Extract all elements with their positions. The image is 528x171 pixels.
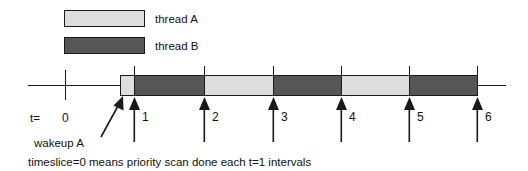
axis-baseline-left <box>28 85 121 86</box>
tick-arrow-1 <box>128 97 141 142</box>
axis-tick-line-6 <box>477 66 478 96</box>
wakeup-label: wakeup A <box>34 138 84 150</box>
segment-thread-b-5 <box>410 75 478 96</box>
axis-tick-line-1 <box>134 66 135 96</box>
tick-label-6: 6 <box>485 111 492 123</box>
tick-label-3: 3 <box>281 111 288 123</box>
tick-arrow-4 <box>335 97 348 142</box>
segment-thread-b-1 <box>135 75 205 96</box>
axis-tick-0 <box>65 70 66 100</box>
tick-arrow-2 <box>198 97 211 142</box>
tick-arrow-3 <box>267 97 280 142</box>
axis-tick-line-3 <box>273 66 274 96</box>
axis-tick-line-4 <box>341 66 342 96</box>
segment-thread-a-2 <box>205 75 274 96</box>
tick-arrow-5 <box>403 97 416 142</box>
segment-thread-a-0 <box>120 75 135 96</box>
axis-t-label: t= <box>30 113 40 125</box>
legend-swatch-thread-a <box>64 10 145 27</box>
tick-arrow-6 <box>471 97 484 142</box>
axis-tick-line-2 <box>204 66 205 96</box>
segment-thread-b-3 <box>274 75 342 96</box>
legend-label-thread-a: thread A <box>155 14 198 26</box>
wakeup-arrow <box>99 96 129 141</box>
segment-thread-a-4 <box>342 75 410 96</box>
figure-caption: timeslice=0 means priority scan done eac… <box>28 157 311 169</box>
tick-label-1: 1 <box>142 111 149 123</box>
tick-label-4: 4 <box>349 111 356 123</box>
axis-tick-line-5 <box>409 66 410 96</box>
legend-swatch-thread-b <box>64 37 145 54</box>
legend-label-thread-b: thread B <box>155 41 198 53</box>
axis-baseline-right <box>478 85 506 86</box>
tick-label-2: 2 <box>212 111 219 123</box>
tick-label-0: 0 <box>62 112 69 124</box>
scheduling-timeline-figure: thread A thread B 1 2 3 <box>0 0 528 171</box>
tick-label-5: 5 <box>417 111 424 123</box>
